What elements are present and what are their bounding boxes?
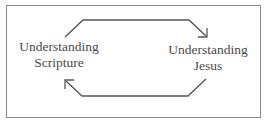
node-understanding-jesus: Understanding Jesus: [161, 42, 255, 74]
node-label-line: Jesus: [161, 58, 255, 74]
arrow-jesus-to-scripture: [65, 79, 206, 96]
node-label-line: Scripture: [12, 55, 106, 71]
node-label-line: Understanding: [12, 39, 106, 55]
node-label-line: Understanding: [161, 42, 255, 58]
arrow-scripture-to-jesus: [65, 20, 207, 37]
node-understanding-scripture: Understanding Scripture: [12, 39, 106, 71]
